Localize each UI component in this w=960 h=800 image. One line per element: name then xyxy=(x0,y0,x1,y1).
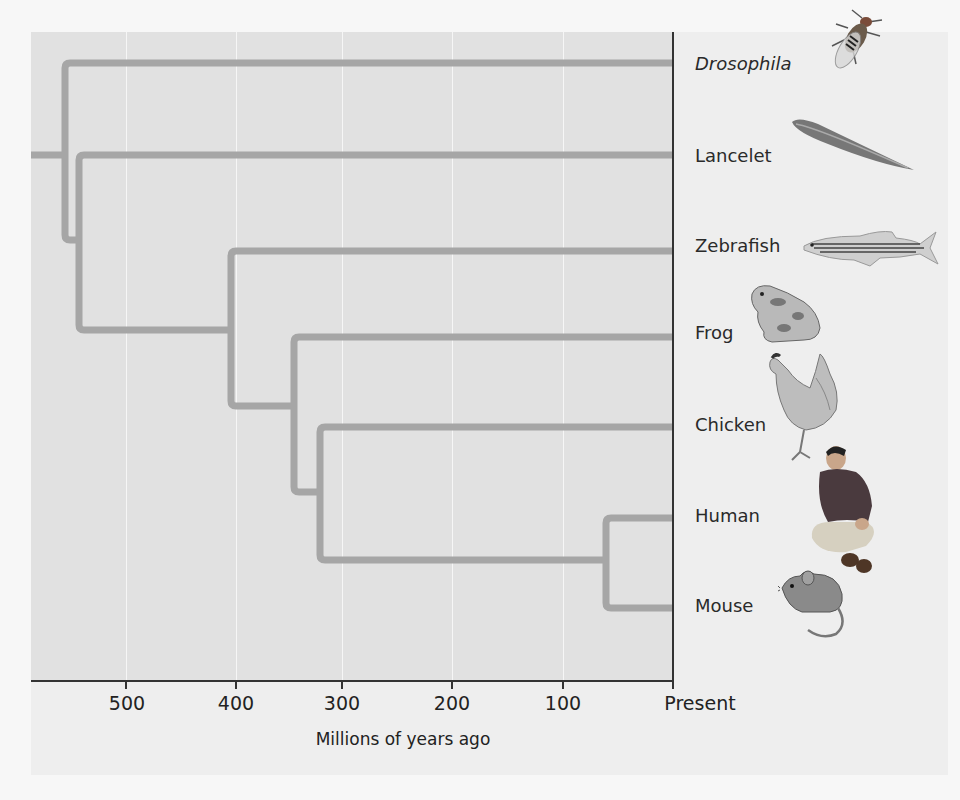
present-line xyxy=(672,32,674,689)
frog-icon xyxy=(748,282,826,346)
human-icon xyxy=(806,442,890,578)
tick-label-500: 500 xyxy=(109,692,145,714)
taxon-label-mouse: Mouse xyxy=(695,595,753,616)
tick-label-present: Present xyxy=(664,692,735,714)
fruit-fly-icon xyxy=(822,6,886,86)
taxon-label-chicken: Chicken xyxy=(695,414,766,435)
taxon-label-zebrafish: Zebrafish xyxy=(695,235,780,256)
tick-400 xyxy=(235,681,237,689)
x-axis xyxy=(31,680,674,682)
tick-500 xyxy=(125,681,127,689)
tick-label-400: 400 xyxy=(218,692,254,714)
x-axis-title: Millions of years ago xyxy=(316,729,491,749)
zebrafish-icon xyxy=(800,228,940,272)
tick-100 xyxy=(562,681,564,689)
tick-label-300: 300 xyxy=(324,692,360,714)
tick-200 xyxy=(451,681,453,689)
branch-frog xyxy=(294,337,673,492)
branch-lancelet xyxy=(79,155,673,330)
tick-label-200: 200 xyxy=(434,692,470,714)
mouse-icon xyxy=(778,568,852,640)
tick-label-100: 100 xyxy=(545,692,581,714)
taxon-label-frog: Frog xyxy=(695,322,734,343)
taxon-label-drosophila: Drosophila xyxy=(695,53,792,74)
branch-chicken xyxy=(320,427,673,560)
lancelet-icon xyxy=(788,114,920,176)
taxon-label-human: Human xyxy=(695,505,760,526)
tick-300 xyxy=(341,681,343,689)
taxon-label-lancelet: Lancelet xyxy=(695,145,772,166)
branch-human-mouse xyxy=(606,518,673,608)
